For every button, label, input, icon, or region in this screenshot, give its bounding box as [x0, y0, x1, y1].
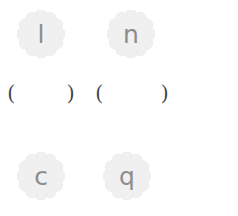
letter-badge-q[interactable]: q	[103, 152, 151, 200]
answer-blank-2[interactable]: ( )	[96, 80, 168, 104]
worksheet-canvas: l n ( ) ( )	[0, 0, 238, 216]
badge-letter: q	[119, 164, 135, 189]
badge-letter: l	[38, 22, 45, 47]
letter-badge-c[interactable]: c	[17, 152, 65, 200]
open-paren: (	[96, 82, 103, 102]
letter-badge-l[interactable]: l	[17, 10, 65, 58]
answer-blank-1[interactable]: ( )	[8, 80, 74, 104]
close-paren: )	[67, 82, 74, 102]
badge-letter: c	[34, 164, 48, 189]
badge-letter: n	[123, 22, 139, 47]
close-paren: )	[161, 82, 168, 102]
letter-badge-n[interactable]: n	[107, 10, 155, 58]
open-paren: (	[8, 82, 15, 102]
